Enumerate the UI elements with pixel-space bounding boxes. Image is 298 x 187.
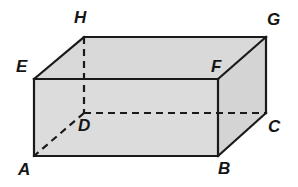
- geometry-figure: A B C D E F G H: [0, 0, 298, 187]
- vertex-label-G: G: [267, 11, 280, 28]
- vertex-label-C: C: [268, 118, 280, 135]
- front-face: [34, 79, 218, 156]
- vertex-label-H: H: [74, 9, 86, 26]
- vertex-label-D: D: [78, 117, 90, 134]
- rectangular-prism-diagram: [0, 0, 298, 187]
- vertex-label-B: B: [218, 160, 230, 177]
- vertex-label-E: E: [16, 58, 27, 75]
- vertex-label-A: A: [18, 161, 30, 178]
- prism-faces: [34, 37, 266, 156]
- vertex-label-F: F: [211, 58, 221, 75]
